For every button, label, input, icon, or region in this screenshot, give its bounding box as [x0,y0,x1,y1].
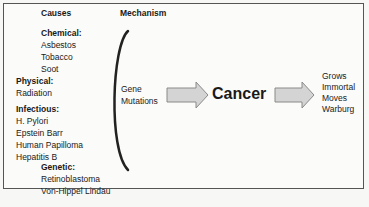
cancer-label: Cancer [212,85,266,103]
cause-item: Tobacco [41,51,73,63]
causes-header: Causes [41,7,71,19]
cause-item: Soot [41,63,59,75]
cause-item: Epstein Barr [16,127,63,139]
cause-item: Radiation [16,87,52,99]
mechanism-line1: Gene [121,83,142,95]
mechanism-line2: Mutations [121,95,158,107]
cause-item: Human Papilloma [16,139,83,151]
outcome-item: Warburg [322,103,354,115]
cause-item: Asbestos [41,39,76,51]
cause-item: H. Pylori [16,115,48,127]
cause-item: Retinoblastoma [41,173,100,185]
infectious-label: Infectious: [16,103,59,115]
chemical-label: Chemical: [41,27,82,39]
cause-item: Von-Hippel Lindau [41,185,110,197]
arrow-to-cancer [167,82,208,108]
mechanism-header: Mechanism [120,7,166,19]
genetic-label: Genetic: [41,161,75,173]
arrow-to-outcomes [275,82,314,108]
physical-label: Physical: [16,75,53,87]
